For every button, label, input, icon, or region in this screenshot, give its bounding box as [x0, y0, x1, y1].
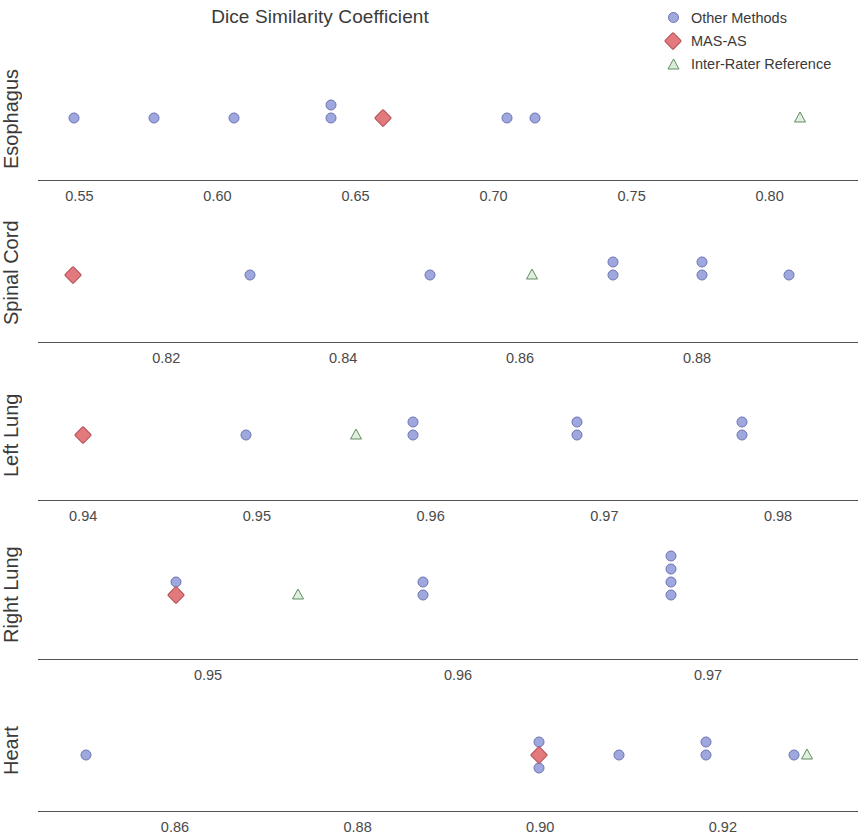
panel-spinal-cord: Spinal Cord0.820.840.860.88	[0, 207, 862, 372]
data-point-other-methods	[529, 113, 540, 124]
panel-right-lung: Right Lung0.950.960.97	[0, 532, 862, 693]
data-point-other-methods	[736, 430, 747, 441]
panel-left-lung: Left Lung0.940.950.960.970.98	[0, 372, 862, 532]
x-axis-line	[38, 500, 858, 501]
panel-axis-label: Spinal Cord	[0, 207, 23, 339]
data-point-mas-as	[166, 586, 184, 604]
data-point-other-methods	[697, 270, 708, 281]
data-point-other-methods	[424, 270, 435, 281]
circle-marker-icon	[655, 6, 691, 29]
x-axis-tick-label: 0.90	[526, 819, 554, 835]
x-axis-tick-label: 0.95	[194, 667, 222, 683]
data-point-other-methods	[607, 257, 618, 268]
panel-axis-label: Right Lung	[0, 532, 23, 657]
x-axis-tick-label: 0.96	[417, 508, 445, 524]
legend-item-other-methods: Other Methods	[655, 6, 862, 29]
data-point-other-methods	[665, 564, 676, 575]
x-axis-tick-label: 0.86	[506, 350, 534, 366]
x-axis-line	[38, 659, 858, 660]
data-point-inter-rater-reference	[349, 426, 362, 444]
data-point-other-methods	[607, 270, 618, 281]
x-axis-line	[38, 342, 858, 343]
data-point-inter-rater-reference	[800, 746, 813, 764]
legend-label: Other Methods	[691, 10, 787, 26]
x-axis-tick-label: 0.75	[617, 188, 645, 204]
data-point-other-methods	[534, 763, 545, 774]
data-point-other-methods	[613, 750, 624, 761]
panel-axis-label: Left Lung	[0, 372, 23, 498]
x-axis-line	[38, 811, 858, 812]
x-axis-tick-label: 0.97	[694, 667, 722, 683]
x-axis-tick-label: 0.94	[69, 508, 97, 524]
data-point-other-methods	[418, 577, 429, 588]
dice-similarity-chart: Dice Similarity Coefficient Other Method…	[0, 0, 862, 840]
legend-item-mas-as: MAS-AS	[655, 29, 862, 52]
data-point-other-methods	[502, 113, 513, 124]
data-point-other-methods	[701, 737, 712, 748]
x-axis-tick-label: 0.80	[756, 188, 784, 204]
data-point-other-methods	[418, 590, 429, 601]
x-axis-tick-label: 0.92	[709, 819, 737, 835]
data-point-other-methods	[325, 113, 336, 124]
x-axis-tick-label: 0.88	[343, 819, 371, 835]
data-point-other-methods	[571, 430, 582, 441]
x-axis-line	[38, 180, 858, 181]
data-point-other-methods	[665, 577, 676, 588]
data-point-mas-as	[374, 109, 392, 127]
data-point-other-methods	[697, 257, 708, 268]
data-point-mas-as	[74, 426, 92, 444]
data-point-other-methods	[245, 270, 256, 281]
data-point-other-methods	[68, 113, 79, 124]
x-axis-tick-label: 0.55	[65, 188, 93, 204]
x-axis-tick-label: 0.98	[764, 508, 792, 524]
diamond-marker-icon	[655, 29, 691, 52]
data-point-inter-rater-reference	[525, 266, 538, 284]
data-point-other-methods	[701, 750, 712, 761]
data-point-other-methods	[665, 551, 676, 562]
data-point-mas-as	[64, 266, 82, 284]
data-point-other-methods	[408, 417, 419, 428]
data-point-other-methods	[736, 417, 747, 428]
x-axis-tick-label: 0.82	[152, 350, 180, 366]
data-point-other-methods	[325, 100, 336, 111]
x-axis-tick-label: 0.88	[683, 350, 711, 366]
panel-axis-label: Esophagus	[0, 60, 23, 178]
legend-label: MAS-AS	[691, 33, 747, 49]
data-point-other-methods	[148, 113, 159, 124]
data-point-inter-rater-reference	[794, 109, 807, 127]
x-axis-tick-label: 0.65	[341, 188, 369, 204]
data-point-other-methods	[784, 270, 795, 281]
data-point-other-methods	[408, 430, 419, 441]
data-point-inter-rater-reference	[292, 586, 305, 604]
x-axis-tick-label: 0.96	[444, 667, 472, 683]
data-point-other-methods	[81, 750, 92, 761]
panel-axis-label: Heart	[0, 693, 23, 809]
data-point-mas-as	[530, 746, 548, 764]
panel-heart: Heart0.860.880.900.92	[0, 693, 862, 840]
data-point-other-methods	[665, 590, 676, 601]
data-point-other-methods	[241, 430, 252, 441]
x-axis-tick-label: 0.86	[161, 819, 189, 835]
panel-esophagus: Esophagus0.550.600.650.700.750.80	[0, 60, 862, 207]
x-axis-tick-label: 0.95	[243, 508, 271, 524]
x-axis-tick-label: 0.60	[203, 188, 231, 204]
x-axis-tick-label: 0.97	[590, 508, 618, 524]
x-axis-tick-label: 0.84	[329, 350, 357, 366]
x-axis-tick-label: 0.70	[479, 188, 507, 204]
page-title: Dice Similarity Coefficient	[0, 6, 640, 28]
data-point-other-methods	[229, 113, 240, 124]
data-point-other-methods	[789, 750, 800, 761]
data-point-other-methods	[571, 417, 582, 428]
